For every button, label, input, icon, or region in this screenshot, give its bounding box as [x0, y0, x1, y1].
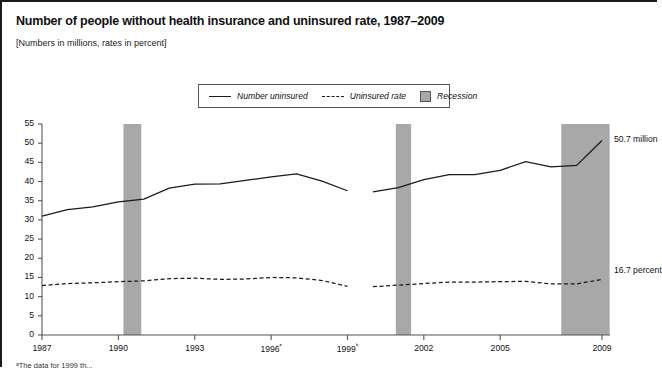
chart-plot-area — [2, 2, 659, 369]
x-tick-label: 1987 — [22, 343, 62, 353]
y-tick-label: 5 — [12, 310, 34, 320]
recession-band — [396, 124, 411, 335]
x-tick-label: 1996ᵃ — [251, 343, 291, 354]
x-tick-label: 1993 — [175, 343, 215, 353]
x-tick-label: 1999ᵇ — [327, 343, 367, 354]
y-tick-label: 20 — [12, 252, 34, 262]
y-tick-label: 25 — [12, 233, 34, 243]
annotation-rate-end: 16.7 percent — [614, 265, 662, 275]
y-tick-label: 45 — [12, 156, 34, 166]
x-tick-label: 2009 — [582, 343, 622, 353]
recession-band — [123, 124, 141, 335]
y-tick-label: 55 — [12, 118, 34, 128]
y-tick-label: 40 — [12, 176, 34, 186]
annotation-number-end: 50.7 million — [614, 134, 657, 144]
y-tick-label: 30 — [12, 214, 34, 224]
y-tick-label: 10 — [12, 291, 34, 301]
y-tick-label: 15 — [12, 271, 34, 281]
series-line-solid — [42, 174, 347, 216]
y-tick-label: 35 — [12, 195, 34, 205]
x-tick-label: 1990 — [98, 343, 138, 353]
chart-footnote: ᵃThe data for 1999 th... — [16, 361, 636, 370]
y-tick-label: 0 — [12, 329, 34, 339]
y-tick-label: 50 — [12, 137, 34, 147]
x-tick-label: 2002 — [404, 343, 444, 353]
recession-band — [561, 124, 609, 335]
x-tick-label: 2005 — [480, 343, 520, 353]
series-line-dashed — [42, 277, 347, 286]
